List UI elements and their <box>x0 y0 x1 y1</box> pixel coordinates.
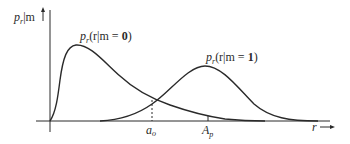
x-axis-label: r <box>312 120 317 134</box>
marker-label-ap: Ap <box>201 123 213 139</box>
right-arrow-icon <box>320 125 335 129</box>
curve-rlm-1 <box>100 66 318 121</box>
y-axis-label: pr|m <box>13 10 36 26</box>
likelihood-diagram: pr|m pr(r|m = 0) pr(r|m = 1) ao Ap r <box>0 0 350 144</box>
up-arrow-icon <box>41 7 45 21</box>
curve-label-rlm-0: pr(r|m = 0) <box>79 29 132 45</box>
marker-label-ao: ao <box>146 123 156 138</box>
curve-label-rlm-1: pr(r|m = 1) <box>205 50 258 66</box>
